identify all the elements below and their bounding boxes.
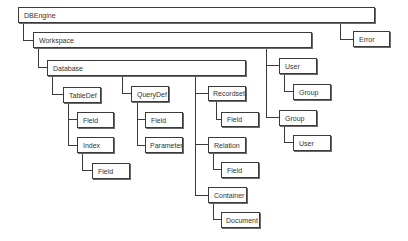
node-container: Container bbox=[208, 187, 247, 203]
connector-tabledef-field-h bbox=[68, 119, 77, 120]
node-document: Document bbox=[221, 212, 260, 228]
node-group-user: User bbox=[293, 135, 331, 151]
connector-relation-field bbox=[213, 152, 214, 170]
node-error: Error bbox=[353, 31, 390, 47]
connector-workspace-group-h bbox=[266, 117, 279, 118]
connector-querydef-parameter-h bbox=[137, 145, 145, 146]
connector-dbengine-error-h bbox=[340, 39, 353, 40]
connector-user-group-h bbox=[284, 91, 293, 92]
connector-dbengine-workspace-h bbox=[23, 40, 33, 41]
connector-workspace-database bbox=[38, 47, 39, 68]
connector-workspace-users bbox=[266, 47, 267, 118]
node-index: Index bbox=[77, 137, 114, 153]
connector-tabledef-children bbox=[68, 102, 69, 146]
node-recordset-field: Field bbox=[221, 112, 259, 127]
node-recordset: Recordset bbox=[208, 86, 246, 101]
connector-workspace-user-h bbox=[266, 65, 279, 66]
node-database: Database bbox=[47, 60, 246, 76]
node-parameter: Parameter bbox=[145, 137, 183, 153]
connector-user-group bbox=[284, 73, 285, 92]
connector-container-document-h bbox=[213, 219, 221, 220]
connector-index-field-h bbox=[82, 170, 92, 171]
connector-group-user bbox=[284, 125, 285, 143]
connector-database-container-h bbox=[195, 195, 208, 196]
connector-database-relation-h bbox=[195, 144, 208, 145]
node-tabledef: TableDef bbox=[63, 87, 101, 103]
connector-database-tabledef-h bbox=[52, 94, 63, 95]
node-tabledef-field: Field bbox=[77, 112, 114, 128]
connector-group-user-h bbox=[284, 142, 293, 143]
node-group: Group bbox=[279, 110, 317, 126]
connector-relation-field-h bbox=[213, 169, 221, 170]
connector-querydef-children bbox=[137, 101, 138, 146]
node-dbengine: DBEngine bbox=[18, 7, 375, 23]
node-relation-field: Field bbox=[221, 162, 259, 178]
connector-dbengine-error bbox=[340, 22, 341, 40]
node-workspace: Workspace bbox=[33, 32, 312, 48]
connector-container-document bbox=[213, 202, 214, 220]
node-user-group: Group bbox=[293, 84, 331, 100]
node-relation: Relation bbox=[208, 137, 246, 153]
connector-database-querydef-h bbox=[122, 93, 131, 94]
node-index-field: Field bbox=[92, 163, 130, 179]
connector-index-field bbox=[82, 152, 83, 171]
node-querydef: QueryDef bbox=[131, 86, 169, 102]
connector-dbengine-workspace bbox=[23, 22, 24, 41]
connector-database-tabledef bbox=[52, 75, 53, 95]
connector-tabledef-index-h bbox=[68, 145, 77, 146]
node-querydef-field: Field bbox=[145, 112, 183, 128]
connector-querydef-field-h bbox=[137, 119, 145, 120]
node-user: User bbox=[279, 58, 317, 74]
connector-recordset-field bbox=[216, 100, 217, 120]
connector-database-querydef bbox=[122, 75, 123, 94]
